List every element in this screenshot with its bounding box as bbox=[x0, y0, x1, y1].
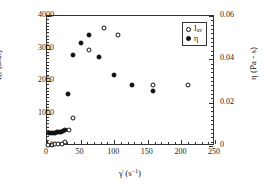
y2-tick-label: 0.02 bbox=[220, 98, 234, 106]
x-tick-major bbox=[148, 140, 149, 144]
data-point-η bbox=[87, 33, 92, 38]
y-tick-minor bbox=[47, 91, 49, 92]
y-tick-label: 3000 bbox=[38, 44, 54, 52]
y2-tick-minor bbox=[211, 111, 213, 112]
y2-tick-minor bbox=[211, 51, 213, 52]
y2-tick-minor bbox=[211, 38, 213, 39]
y-tick-minor bbox=[47, 84, 49, 85]
x-tick-minor bbox=[101, 142, 102, 144]
legend-item-iav: Iav bbox=[186, 25, 202, 34]
y-tick-minor bbox=[47, 29, 49, 30]
y-tick-minor bbox=[47, 117, 49, 118]
x-tick-minor bbox=[141, 142, 142, 144]
data-point-I_av bbox=[102, 26, 107, 31]
y2-tick-minor bbox=[211, 124, 213, 125]
data-point-η bbox=[112, 73, 117, 78]
data-point-η bbox=[65, 92, 70, 97]
x-tick-label: 50 bbox=[76, 148, 84, 156]
y2-tick-minor bbox=[211, 107, 213, 108]
y2-tick-minor bbox=[211, 29, 213, 30]
y2-tick-minor bbox=[211, 120, 213, 121]
y-tick-label: 4000 bbox=[38, 11, 54, 19]
x-tick-minor bbox=[87, 142, 88, 144]
x-tick-label: 150 bbox=[141, 148, 153, 156]
data-point-I_av bbox=[115, 33, 120, 38]
y-tick-label: 1000 bbox=[38, 109, 54, 117]
secondary-y-axis-title: η (Pa - s) bbox=[248, 47, 258, 80]
x-tick-label: 250 bbox=[208, 148, 220, 156]
x-tick-major bbox=[114, 140, 115, 144]
y2-tick-minor bbox=[211, 68, 213, 69]
x-tick-minor bbox=[121, 142, 122, 144]
y2-tick-minor bbox=[211, 46, 213, 47]
y-tick-minor bbox=[47, 55, 49, 56]
y-tick-minor bbox=[47, 19, 49, 20]
y2-tick-minor bbox=[211, 142, 213, 143]
y2-tick-minor bbox=[211, 64, 213, 65]
x-tick-minor bbox=[175, 142, 176, 144]
x-tick-minor bbox=[134, 142, 135, 144]
x-tick-minor bbox=[208, 142, 209, 144]
y-tick-minor bbox=[47, 127, 49, 128]
x-tick-label: 100 bbox=[107, 148, 119, 156]
y2-tick-minor bbox=[211, 72, 213, 73]
y-tick-minor bbox=[47, 136, 49, 137]
y-tick-minor bbox=[47, 68, 49, 69]
y-tick-minor bbox=[47, 71, 49, 72]
filled-circle-marker-icon bbox=[186, 36, 191, 41]
y-tick-minor bbox=[47, 58, 49, 59]
y2-tick-minor bbox=[211, 55, 213, 56]
y2-tick-label: 0.06 bbox=[220, 11, 234, 19]
y2-tick-minor bbox=[211, 33, 213, 34]
data-point-I_av bbox=[151, 82, 156, 87]
x-tick-major bbox=[81, 140, 82, 144]
y2-tick-minor bbox=[211, 90, 213, 91]
data-point-η bbox=[130, 82, 135, 87]
y-tick-minor bbox=[47, 26, 49, 27]
y2-tick-minor bbox=[211, 85, 213, 86]
data-point-η bbox=[70, 53, 75, 58]
x-tick-minor bbox=[94, 142, 95, 144]
y2-tick-major bbox=[209, 16, 213, 17]
figure: Iav (a.u.) η (Pa - s) γ̇ (s−1) Iav η 050… bbox=[0, 0, 274, 196]
x-tick-minor bbox=[161, 142, 162, 144]
y2-tick-major bbox=[209, 103, 213, 104]
x-tick-minor bbox=[128, 142, 129, 144]
y-tick-minor bbox=[47, 32, 49, 33]
y-tick-minor bbox=[47, 120, 49, 121]
y-tick-minor bbox=[47, 123, 49, 124]
y2-tick-minor bbox=[211, 81, 213, 82]
y2-tick-minor bbox=[211, 116, 213, 117]
legend-item-eta: η bbox=[186, 34, 202, 43]
y-tick-minor bbox=[47, 39, 49, 40]
y2-tick-minor bbox=[211, 129, 213, 130]
data-point-I_av bbox=[63, 139, 68, 144]
legend-label-iav: Iav bbox=[194, 25, 202, 33]
y2-tick-minor bbox=[211, 25, 213, 26]
x-tick-major bbox=[215, 140, 216, 144]
x-tick-minor bbox=[74, 142, 75, 144]
x-tick-label: 0 bbox=[44, 148, 48, 156]
open-circle-marker-icon bbox=[186, 27, 191, 32]
y-tick-minor bbox=[47, 36, 49, 37]
x-tick-minor bbox=[202, 142, 203, 144]
y2-tick-minor bbox=[211, 98, 213, 99]
legend-label-eta: η bbox=[194, 35, 198, 43]
y-tick-minor bbox=[47, 88, 49, 89]
y-tick-minor bbox=[47, 97, 49, 98]
y2-tick-minor bbox=[211, 77, 213, 78]
x-tick-major bbox=[181, 140, 182, 144]
y-tick-minor bbox=[47, 52, 49, 53]
y-tick-label: 0 bbox=[50, 141, 54, 149]
y2-tick-minor bbox=[211, 133, 213, 134]
y2-tick-minor bbox=[211, 20, 213, 21]
data-point-η bbox=[151, 89, 156, 94]
data-point-η bbox=[96, 55, 101, 60]
y2-tick-minor bbox=[211, 42, 213, 43]
y-tick-minor bbox=[47, 94, 49, 95]
legend: Iav η bbox=[182, 22, 207, 46]
x-tick-minor bbox=[107, 142, 108, 144]
data-point-I_av bbox=[70, 115, 75, 120]
y-tick-minor bbox=[47, 62, 49, 63]
y-tick-minor bbox=[47, 23, 49, 24]
